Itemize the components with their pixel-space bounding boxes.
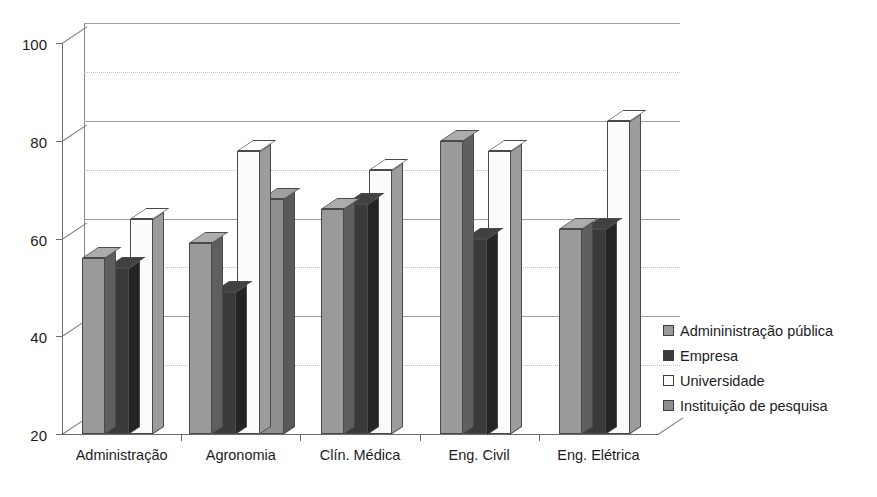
bar-front-face <box>189 243 212 434</box>
bar-side-face <box>153 212 164 434</box>
legend-item-label: Empresa <box>680 348 738 364</box>
bar-front-face <box>559 229 582 434</box>
x-axis-category-label: Administração <box>76 447 168 463</box>
legend-item-label: Universidade <box>680 373 765 389</box>
y-axis-tick-label: 80 <box>30 133 47 150</box>
y-axis-tick-label: 20 <box>30 427 47 444</box>
y-axis-tick-label: 60 <box>30 231 47 248</box>
bar-side-face <box>105 251 116 434</box>
bar-side-face <box>463 133 474 434</box>
x-axis-category-label: Clín. Médica <box>320 447 401 463</box>
bar-side-face <box>284 192 295 434</box>
bar <box>440 141 463 434</box>
legend-item: Universidade <box>663 368 873 393</box>
bar-side-face <box>129 260 140 434</box>
bar-chart: 20406080100 AdministraçãoAgronomiaClín. … <box>0 0 877 497</box>
legend-item-label: Instituição de pesquisa <box>680 398 828 414</box>
legend-item: Empresa <box>663 343 873 368</box>
x-axis-category-label: Eng. Civil <box>449 447 510 463</box>
bar-front-face <box>321 209 344 434</box>
bar-side-face <box>344 202 355 434</box>
bar-side-face <box>368 197 379 434</box>
bar-side-face <box>582 221 593 434</box>
x-axis-category-label: Eng. Elétrica <box>557 447 639 463</box>
legend-swatch <box>663 400 674 411</box>
bar-front-face <box>440 141 463 434</box>
legend-item-label: Admininistração pública <box>680 323 833 339</box>
bar-side-face <box>630 114 641 434</box>
bar-front-face <box>82 258 105 434</box>
bar <box>559 229 582 434</box>
bar <box>189 243 212 434</box>
bar <box>321 209 344 434</box>
x-axis-separator <box>300 434 301 441</box>
gridline-major <box>84 121 680 122</box>
gridline-major <box>84 23 680 24</box>
bar-side-face <box>487 231 498 434</box>
legend-item: Instituição de pesquisa <box>663 393 873 418</box>
x-axis-separator <box>539 434 540 441</box>
bar <box>82 258 105 434</box>
legend-swatch <box>663 350 674 361</box>
bar-side-face <box>260 143 271 434</box>
plot-area: 20406080100 AdministraçãoAgronomiaClín. … <box>62 43 658 434</box>
chart-legend: Admininistração públicaEmpresaUniversida… <box>663 318 873 418</box>
bar-side-face <box>212 236 223 434</box>
x-axis-category-label: Agronomia <box>206 447 276 463</box>
y-axis-tick-label: 100 <box>22 36 47 53</box>
legend-item: Admininistração pública <box>663 318 873 343</box>
y-axis-tick-label: 40 <box>30 329 47 346</box>
legend-swatch <box>663 325 674 336</box>
x-axis <box>62 434 658 435</box>
x-axis-separator <box>181 434 182 441</box>
x-axis-separator <box>420 434 421 441</box>
gridline-minor <box>84 72 680 73</box>
floor-right-edge <box>658 417 684 434</box>
bar-side-face <box>236 285 247 434</box>
bar-side-face <box>606 221 617 434</box>
bar-side-face <box>511 143 522 434</box>
bar-side-face <box>392 163 403 434</box>
legend-swatch <box>663 375 674 386</box>
